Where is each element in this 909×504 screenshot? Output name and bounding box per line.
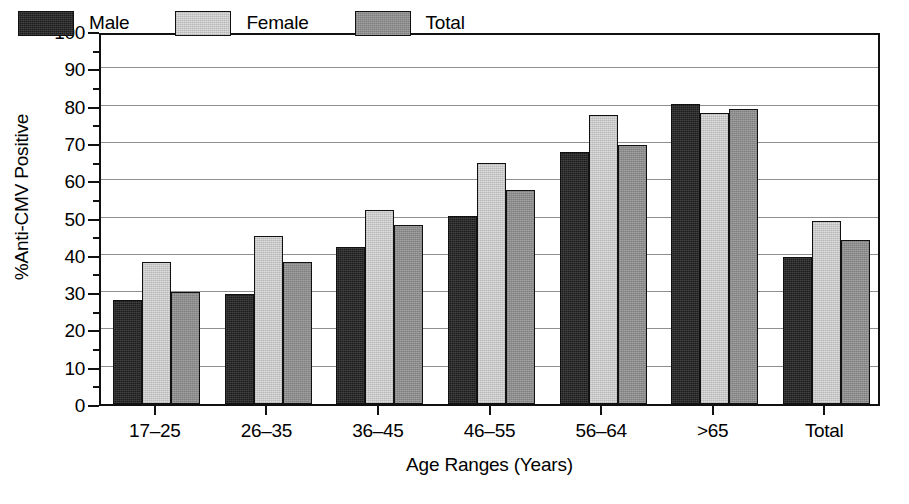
y-tick-label-40: 40 [64, 246, 85, 268]
bar-female-0 [142, 262, 171, 404]
bar-male-5 [671, 104, 700, 404]
legend-swatch-total [355, 11, 411, 36]
y-tick-30 [88, 293, 99, 295]
bar-total-0 [171, 292, 200, 404]
y-tick-40 [88, 256, 99, 258]
x-tick-label-6: Total [805, 420, 844, 442]
bar-female-2 [365, 210, 394, 404]
legend-label-female: Female [246, 12, 308, 34]
legend-entry-total: Total [355, 11, 511, 36]
bar-total-3 [506, 190, 535, 404]
bar-female-5 [700, 113, 729, 404]
y-tick-90 [88, 69, 99, 71]
bar-female-1 [254, 236, 283, 404]
legend-label-total: Total [426, 12, 465, 34]
bar-total-2 [394, 225, 423, 404]
bar-male-6 [783, 257, 812, 404]
x-tick-label-4: 56–64 [575, 420, 626, 442]
bar-total-1 [283, 262, 312, 404]
bar-series-group [101, 35, 878, 404]
bar-total-5 [729, 109, 758, 404]
x-tick-label-2: 36–45 [352, 420, 403, 442]
bar-male-2 [336, 247, 365, 404]
y-tick-label-70: 70 [64, 134, 85, 156]
x-tick-label-0: 17–25 [129, 420, 180, 442]
x-tick-6 [823, 406, 825, 415]
x-axis-title: Age Ranges (Years) [99, 454, 880, 476]
bar-male-0 [113, 300, 142, 404]
y-tick-label-60: 60 [64, 171, 85, 193]
bar-male-1 [225, 294, 254, 404]
bar-female-4 [589, 115, 618, 404]
x-tick-0 [154, 406, 156, 415]
bar-chart-figure: 0102030405060708090100 %Anti-CMV Positiv… [0, 0, 909, 504]
y-tick-label-10: 10 [64, 358, 85, 380]
legend-label-male: Male [89, 12, 129, 34]
y-tick-10 [88, 368, 99, 370]
x-axis: Age Ranges (Years) 17–2526–3536–4546–555… [99, 406, 880, 504]
chart-legend: MaleFemaleTotal [18, 6, 511, 40]
bar-male-4 [560, 152, 589, 404]
plot-area [99, 33, 880, 406]
y-tick-label-20: 20 [64, 320, 85, 342]
x-tick-label-3: 46–55 [464, 420, 515, 442]
x-tick-1 [265, 406, 267, 415]
legend-entry-female: Female [175, 11, 354, 36]
y-tick-0 [88, 405, 99, 407]
y-tick-label-90: 90 [64, 59, 85, 81]
legend-entry-male: Male [18, 11, 175, 36]
y-tick-80 [88, 107, 99, 109]
x-tick-label-1: 26–35 [241, 420, 292, 442]
x-tick-4 [600, 406, 602, 415]
y-tick-label-80: 80 [64, 97, 85, 119]
legend-swatch-female [175, 11, 231, 36]
bar-female-6 [812, 221, 841, 404]
x-tick-label-5: >65 [697, 420, 728, 442]
bar-male-3 [448, 216, 477, 404]
legend-swatch-male [18, 11, 74, 36]
y-tick-50 [88, 219, 99, 221]
y-tick-70 [88, 144, 99, 146]
y-tick-label-30: 30 [64, 283, 85, 305]
y-tick-20 [88, 330, 99, 332]
x-tick-5 [712, 406, 714, 415]
y-tick-60 [88, 181, 99, 183]
y-axis-title: %Anti-CMV Positive [11, 32, 33, 362]
y-tick-label-50: 50 [64, 209, 85, 231]
x-tick-3 [489, 406, 491, 415]
y-tick-label-0: 0 [75, 395, 85, 417]
bar-total-4 [618, 145, 647, 404]
x-tick-2 [377, 406, 379, 415]
bar-female-3 [477, 163, 506, 404]
bar-total-6 [841, 240, 870, 404]
